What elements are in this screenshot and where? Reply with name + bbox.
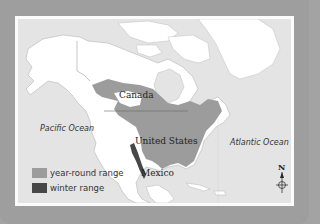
pacific-ocean-label: Pacific Ocean: [40, 124, 94, 133]
compass-icon: [276, 163, 288, 193]
legend-item-winter: winter range: [32, 180, 124, 195]
united-states-label: United States: [135, 136, 198, 146]
compass-rose: N: [276, 163, 288, 193]
winter-range-swatch: [32, 183, 47, 193]
mexico-label: Mexico: [141, 168, 174, 178]
atlantic-ocean-label: Atlantic Ocean: [230, 138, 289, 147]
year-round-range-swatch: [32, 168, 47, 178]
legend-label: winter range: [50, 183, 104, 193]
legend-item-year-round: year-round range: [32, 165, 124, 180]
canada-label: Canada: [119, 90, 154, 100]
legend-label: year-round range: [50, 168, 124, 178]
map-legend: year-round range winter range: [32, 165, 124, 195]
